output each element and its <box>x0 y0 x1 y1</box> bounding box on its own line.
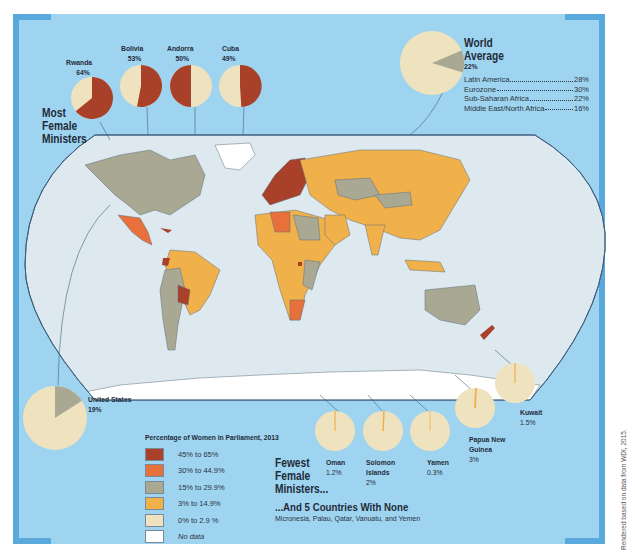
label-papua-new-guinea: Papua New Guinea 3% <box>469 435 505 465</box>
legend-title: Percentage of Women in Parliament, 2013 <box>145 433 279 442</box>
label-andorra: Andorra 50% <box>167 44 193 64</box>
most-female-ministers-heading: Most Female Ministers <box>42 107 87 146</box>
pie-oman <box>315 411 355 451</box>
pie-andorra <box>170 65 212 107</box>
country-name: Guinea <box>469 445 505 455</box>
country-value: 3% <box>469 455 505 465</box>
legend-swatch <box>145 530 164 543</box>
pie-bolivia <box>120 65 162 107</box>
country-name: Bolivia <box>121 44 143 54</box>
country-value: 2% <box>366 478 395 488</box>
pie-cuba <box>219 65 262 107</box>
world-average-value: 22% <box>464 62 478 71</box>
pie-world-average <box>400 31 464 95</box>
label-rwanda: Rwanda 64% <box>66 58 92 78</box>
label-yamen: Yamen 0.3% <box>427 458 449 478</box>
country-value: 1.5% <box>520 418 542 428</box>
label-oman: Oman 1.2% <box>326 458 345 478</box>
legend-item: No data <box>145 529 294 546</box>
legend-item: 30% to 44.9% <box>145 463 294 480</box>
fewest-female-ministers-heading: Fewest Female Ministers... <box>275 457 328 496</box>
legend-item: 45% to 65% <box>145 446 294 463</box>
source-credit: Rendered based on data from WDI, 2015. <box>620 429 627 550</box>
country-value: 64% <box>66 68 92 78</box>
region-row: Sub-Saharan Africa 22% <box>464 94 589 104</box>
country-value: 19% <box>88 405 131 415</box>
label-cuba: Cuba 49% <box>222 44 239 64</box>
label-solomon-islands: Solomon Islands 2% <box>366 458 395 488</box>
country-name: Papua New <box>469 435 505 445</box>
pie-solomon-islands <box>363 411 403 451</box>
country-name: Solomon <box>366 458 395 468</box>
legend-swatch <box>145 448 164 461</box>
country-name: Rwanda <box>66 58 92 68</box>
legend-swatch <box>145 497 164 510</box>
countries-with-none-list: Micronesia, Palau, Qatar, Vanuatu, and Y… <box>275 515 420 522</box>
countries-with-none-heading: ...And 5 Countries With None <box>275 501 408 513</box>
country-value: 1.2% <box>326 468 345 478</box>
legend-item: 3% to 14.9% <box>145 496 294 513</box>
legend-swatch <box>145 514 164 527</box>
legend-swatch <box>145 464 164 477</box>
pie-kuwait <box>495 363 535 403</box>
region-row: Middle East/North Africa 16% <box>464 104 589 114</box>
pie-yamen <box>410 411 450 451</box>
pie-papua-new-guinea <box>455 388 495 428</box>
label-bolivia: Bolivia 53% <box>121 44 143 64</box>
country-value: 49% <box>222 54 239 64</box>
pie-united-states <box>23 386 87 450</box>
country-value: 50% <box>167 54 193 64</box>
legend-item: 0% to 2.9 % <box>145 512 294 529</box>
country-name: Oman <box>326 458 345 468</box>
country-value: 0.3% <box>427 468 449 478</box>
region-row: Latin America 28% <box>464 75 589 85</box>
country-name: United States <box>88 395 131 405</box>
country-name: Andorra <box>167 44 193 54</box>
country-name: Islands <box>366 468 395 478</box>
map-legend: Percentage of Women in Parliament, 2013 … <box>145 433 294 545</box>
world-average-heading: World Average <box>464 37 504 63</box>
country-value: 53% <box>121 54 143 64</box>
label-kuwait: Kuwait 1.5% <box>520 408 542 428</box>
country-name: Cuba <box>222 44 239 54</box>
label-united-states: United States 19% <box>88 395 131 415</box>
legend-item: 15% to 29.9% <box>145 479 294 496</box>
region-row: Eurozone 30% <box>464 85 589 95</box>
indonesia <box>405 260 445 272</box>
regional-averages-list: Latin America 28% Eurozone 30% Sub-Sahar… <box>464 75 589 113</box>
legend-swatch <box>145 481 164 494</box>
rwanda <box>298 262 302 266</box>
country-name: Kuwait <box>520 408 542 418</box>
country-name: Yamen <box>427 458 449 468</box>
